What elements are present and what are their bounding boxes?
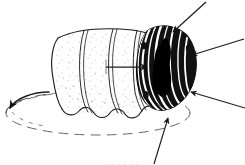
leader-arrow-lower-right — [191, 92, 245, 108]
figure-root: . . . . . . — [0, 0, 245, 165]
line-drawing-canvas — [0, 0, 245, 165]
rotation-arrow-left — [10, 92, 49, 126]
leader-arrow-top — [173, 2, 206, 32]
cut-off-caption-text: . . . . . . — [0, 158, 245, 165]
leader-arrow-upper-right — [192, 39, 244, 55]
